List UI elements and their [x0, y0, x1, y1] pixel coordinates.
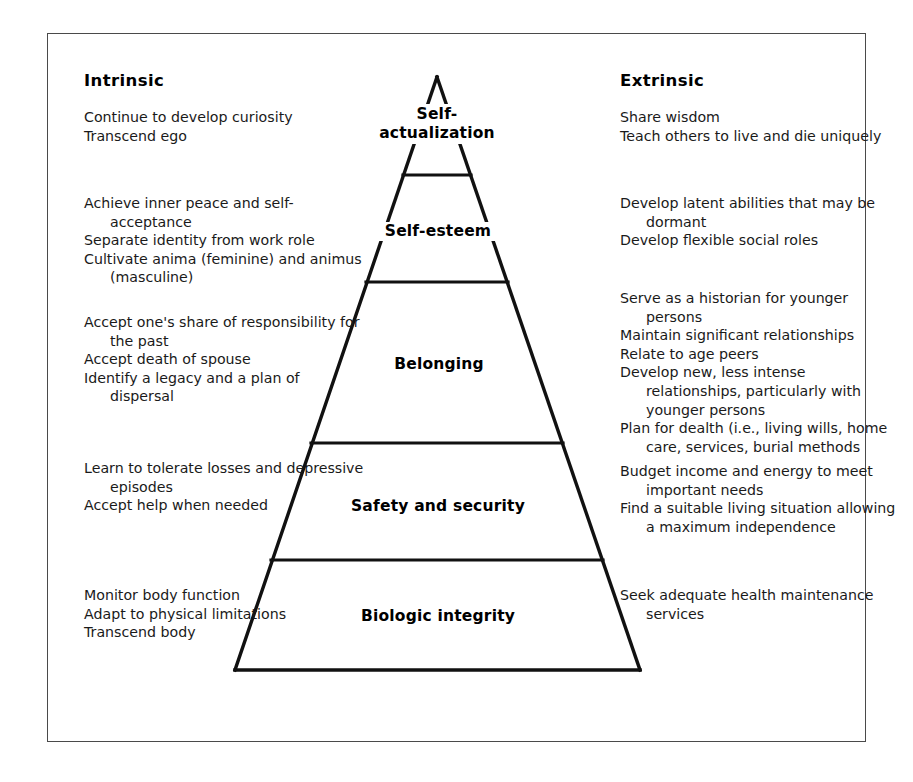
list-item: Identify a legacy and a plan of dispersa… — [84, 369, 364, 406]
list-item: Serve as a historian for younger persons — [620, 289, 898, 326]
tier-label-self-esteem: Self-esteem — [364, 222, 512, 241]
list-item: Cultivate anima (feminine) and animus (m… — [84, 250, 364, 287]
tier-label-safety-and-security: Safety and security — [338, 497, 538, 516]
list-item: Find a suitable living situation allowin… — [620, 499, 898, 536]
list-item: Maintain significant relationships — [620, 326, 898, 345]
list-item: Achieve inner peace and self-acceptance — [84, 194, 364, 231]
tier-label-line: Self-esteem — [385, 222, 491, 240]
list-item: Develop latent abilities that may be dor… — [620, 194, 892, 231]
list-item: Develop flexible social roles — [620, 231, 892, 250]
tier-label-line: Safety and security — [351, 497, 525, 515]
tier-label-line: actualization — [379, 124, 495, 142]
list-item: Learn to tolerate losses and depressive … — [84, 459, 364, 496]
column-heading-extrinsic: Extrinsic — [620, 71, 704, 90]
tier-label-self-actualization: Self-actualization — [357, 104, 517, 144]
list-item: Accept one's share of responsibility for… — [84, 313, 364, 350]
intrinsic-list-biologic-integrity: Monitor body functionAdapt to physical l… — [84, 586, 364, 642]
list-item: Adapt to physical limitations — [84, 605, 364, 624]
list-item: Share wisdom — [620, 108, 900, 127]
list-item: Continue to develop curiosity — [84, 108, 364, 127]
list-item: Separate identity from work role — [84, 231, 364, 250]
list-item: Develop new, less intense relationships,… — [620, 363, 898, 419]
tier-label-line: Belonging — [394, 355, 484, 373]
list-item: Accept help when needed — [84, 496, 364, 515]
extrinsic-list-self-actualization: Share wisdomTeach others to live and die… — [620, 108, 900, 145]
tier-label-line: Biologic integrity — [361, 607, 515, 625]
extrinsic-list-self-esteem: Develop latent abilities that may be dor… — [620, 194, 892, 250]
tier-label-belonging: Belonging — [369, 355, 509, 374]
list-item: Budget income and energy to meet importa… — [620, 462, 898, 499]
extrinsic-list-safety-and-security: Budget income and energy to meet importa… — [620, 462, 898, 536]
list-item: Teach others to live and die uniquely — [620, 127, 900, 146]
intrinsic-list-belonging: Accept one's share of responsibility for… — [84, 313, 364, 406]
tier-label-biologic-integrity: Biologic integrity — [338, 607, 538, 626]
extrinsic-list-belonging: Serve as a historian for younger persons… — [620, 289, 898, 456]
list-item: Transcend body — [84, 623, 364, 642]
intrinsic-list-safety-and-security: Learn to tolerate losses and depressive … — [84, 459, 364, 515]
list-item: Plan for dealth (i.e., living wills, hom… — [620, 419, 898, 456]
column-heading-intrinsic: Intrinsic — [84, 71, 164, 90]
intrinsic-list-self-esteem: Achieve inner peace and self-acceptanceS… — [84, 194, 364, 287]
list-item: Seek adequate health maintenance service… — [620, 586, 892, 623]
intrinsic-list-self-actualization: Continue to develop curiosityTranscend e… — [84, 108, 364, 145]
list-item: Accept death of spouse — [84, 350, 364, 369]
extrinsic-list-biologic-integrity: Seek adequate health maintenance service… — [620, 586, 892, 623]
figure-root: Intrinsic Extrinsic Continue to develop … — [0, 0, 913, 782]
list-item: Transcend ego — [84, 127, 364, 146]
list-item: Monitor body function — [84, 586, 364, 605]
tier-label-line: Self- — [417, 105, 458, 123]
list-item: Relate to age peers — [620, 345, 898, 364]
